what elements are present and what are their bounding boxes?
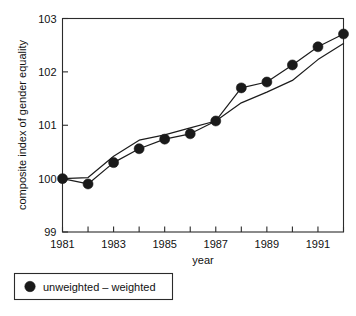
y-axis-title: composite index of gender equality — [16, 40, 28, 210]
x-axis-title: year — [192, 254, 214, 266]
data-point-marker — [262, 77, 272, 87]
data-point-marker — [83, 179, 93, 189]
x-tick-label: 1987 — [204, 238, 228, 250]
filled-circle-marker-icon — [25, 281, 35, 291]
x-tick-label: 1985 — [152, 238, 176, 250]
data-point-marker — [58, 174, 68, 184]
chart-figure: 99100101102103 198119831985198719891991 … — [0, 0, 356, 316]
y-tick-label: 100 — [38, 173, 56, 185]
y-axis-tick-labels: 99100101102103 — [38, 13, 56, 239]
y-tick-label: 102 — [38, 66, 56, 78]
y-tick-label: 99 — [44, 226, 56, 238]
x-axis-tick-labels: 198119831985198719891991 — [50, 238, 330, 250]
data-point-marker — [339, 29, 349, 39]
y-tick-label: 103 — [38, 13, 56, 25]
data-point-marker — [109, 158, 119, 168]
x-tick-label: 1981 — [50, 238, 74, 250]
data-point-marker — [211, 116, 221, 126]
data-point-marker — [185, 129, 195, 139]
series-markers-unweighted — [58, 29, 349, 189]
plot-frame — [63, 19, 344, 233]
x-tick-label: 1983 — [101, 238, 125, 250]
data-point-marker — [160, 134, 170, 144]
chart-legend: unweighted – weighted — [15, 274, 173, 300]
x-axis-ticks — [63, 227, 344, 233]
line-chart: 99100101102103 198119831985198719891991 … — [0, 0, 356, 316]
series-line-unweighted — [63, 34, 344, 184]
data-point-marker — [287, 60, 297, 70]
series-line-weighted — [63, 44, 344, 179]
x-tick-label: 1989 — [255, 238, 279, 250]
data-point-marker — [236, 83, 246, 93]
data-point-marker — [313, 42, 323, 52]
legend-label: unweighted – weighted — [43, 281, 156, 293]
y-tick-label: 101 — [38, 119, 56, 131]
data-point-marker — [134, 144, 144, 154]
x-tick-label: 1991 — [306, 238, 330, 250]
y-axis-ticks — [63, 19, 69, 233]
